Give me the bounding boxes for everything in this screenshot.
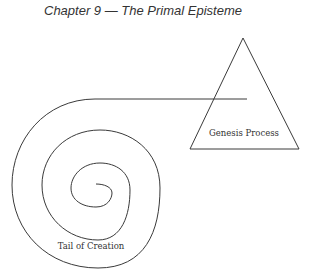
creation-spiral: [12, 99, 247, 268]
tail-of-creation-label: Tail of Creation: [58, 241, 125, 251]
diagram: Genesis Process Tail of Creation: [0, 0, 315, 278]
genesis-process-label: Genesis Process: [209, 128, 279, 138]
